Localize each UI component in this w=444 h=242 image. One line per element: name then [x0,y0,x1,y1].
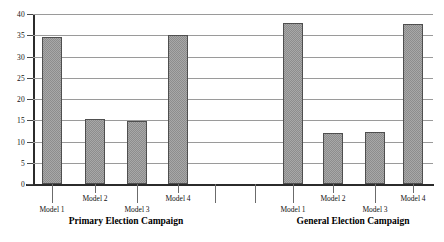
bar [42,37,62,184]
x-axis-category-label: Model 1 [39,205,64,214]
bar [403,24,423,184]
x-axis-category-label: Model 2 [82,194,107,203]
x-axis-tick [293,184,294,203]
y-axis-tick-label: 35 [17,31,25,40]
x-axis-ticks-and-labels: Model 1Model 2Model 3Model 4Model 1Model… [33,184,433,242]
bar-chart: 0510152025303540 Model 1Model 2Model 3Mo… [0,0,444,242]
bar [323,133,343,184]
y-axis-tick-label: 10 [17,137,25,146]
y-axis-tick-label: 20 [17,95,25,104]
gridline [33,35,433,36]
y-axis-tick [27,14,33,15]
gridline [33,14,433,15]
gridline [33,57,433,58]
y-axis-tick-label: 30 [17,52,25,61]
group-title-primary: Primary Election Campaign [69,216,184,226]
x-axis-tick [178,184,179,193]
x-axis-category-label: Model 4 [165,194,190,203]
y-axis-tick-label: 15 [17,116,25,125]
x-axis-tick [375,184,376,203]
bar [127,121,147,184]
x-axis-tick [52,184,53,203]
y-axis-tick [27,120,33,121]
y-axis-tick-label: 25 [17,73,25,82]
y-axis-tick [27,78,33,79]
bar [283,23,303,185]
x-axis-tick [333,184,334,193]
y-axis-tick [27,99,33,100]
x-axis-tick [137,184,138,203]
group-title-general: General Election Campaign [297,216,410,226]
y-axis-tick-label: 40 [17,10,25,19]
plot-area: 0510152025303540 [33,14,433,184]
gridline [33,78,433,79]
bar [168,35,188,184]
x-axis-tick [95,184,96,193]
bar [365,132,385,184]
x-axis-tick [413,184,414,193]
gridline [33,99,433,100]
x-axis-category-label: Model 3 [124,205,149,214]
x-axis-category-label: Model 2 [320,194,345,203]
y-axis-tick [27,142,33,143]
y-axis-tick-label: 5 [21,158,25,167]
x-axis-category-label: Model 4 [400,194,425,203]
x-axis-category-label: Model 3 [362,205,387,214]
y-axis-tick [27,57,33,58]
y-axis-tick-label: 0 [21,180,25,189]
x-axis-category-label: Model 1 [280,205,305,214]
y-axis-tick [27,35,33,36]
x-axis-group-separator-tick [215,184,216,203]
y-axis-tick [27,163,33,164]
bar [85,119,105,184]
x-axis-group-separator-tick [255,184,256,203]
